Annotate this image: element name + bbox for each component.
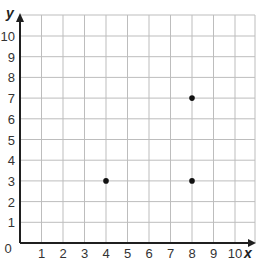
data-point [189, 95, 195, 101]
y-tick-label: 8 [8, 70, 15, 85]
y-tick-label: 3 [8, 174, 15, 189]
origin-label: 0 [4, 241, 11, 256]
data-point [103, 178, 109, 184]
x-tick-label: 4 [102, 246, 109, 260]
x-tick-label: 10 [228, 246, 242, 260]
y-axis-label: y [5, 5, 15, 21]
y-tick-label: 9 [8, 50, 15, 65]
x-tick-label: 3 [81, 246, 88, 260]
x-tick-label: 9 [210, 246, 217, 260]
x-tick-label: 6 [145, 246, 152, 260]
x-tick-label: 5 [124, 246, 131, 260]
x-tick-label: 7 [167, 246, 174, 260]
y-tick-label: 5 [8, 133, 15, 148]
x-tick-label: 8 [188, 246, 195, 260]
x-tick-label: 1 [38, 246, 45, 260]
data-point [189, 178, 195, 184]
coordinate-plane: 1234567891012345678910 x y 0 [0, 0, 259, 260]
x-axis-label: x [243, 245, 253, 260]
y-tick-label: 10 [1, 29, 15, 44]
y-tick-label: 7 [8, 91, 15, 106]
x-tick-label: 2 [59, 246, 66, 260]
y-tick-label: 2 [8, 195, 15, 210]
y-tick-label: 4 [8, 153, 15, 168]
grid-lines [20, 15, 255, 243]
tick-labels: 1234567891012345678910 [1, 29, 243, 260]
axes [16, 13, 256, 247]
y-axis-arrow-icon [16, 13, 24, 22]
y-tick-label: 1 [8, 215, 15, 230]
y-tick-label: 6 [8, 112, 15, 127]
